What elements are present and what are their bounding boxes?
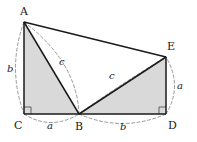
- vertex-label-D: D: [168, 120, 177, 131]
- side-label-c-left: c: [59, 57, 65, 67]
- geometry-diagram-figure: A B C D E b a b a c c: [0, 0, 197, 142]
- vertex-label-E: E: [167, 41, 175, 52]
- side-label-b-bottom: b: [120, 122, 126, 132]
- side-label-a-bottom: a: [47, 121, 53, 131]
- vertex-label-C: C: [14, 120, 22, 131]
- vertex-label-A: A: [20, 6, 28, 17]
- vertex-label-B: B: [75, 121, 83, 132]
- side-label-a-right: a: [177, 81, 183, 91]
- side-label-b-left: b: [7, 64, 13, 74]
- segment-A-E: [24, 22, 166, 57]
- side-label-c-right: c: [109, 71, 115, 81]
- arc-D-E: [166, 57, 175, 114]
- arc-A-C: [16, 22, 25, 114]
